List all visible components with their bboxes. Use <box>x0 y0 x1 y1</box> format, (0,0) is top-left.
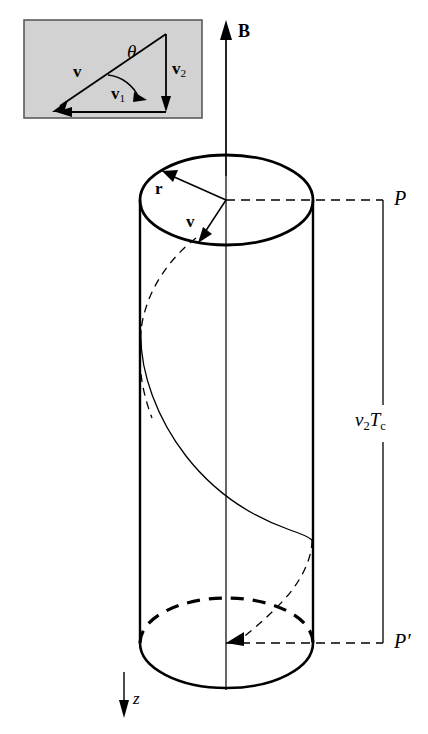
inset-label-v: v <box>73 63 82 80</box>
magnetic-field-axis <box>220 20 232 176</box>
pitch-label-t: T <box>370 409 381 430</box>
pitch-label-t-sub: c <box>380 419 386 433</box>
z-axis <box>119 672 129 718</box>
z-arrowhead <box>119 700 129 718</box>
velocity-vector-v-top <box>198 200 226 243</box>
point-p-prime-label: P′ <box>394 631 411 651</box>
radius-vector-label: r <box>155 180 163 197</box>
inset-label-v1-base: v <box>111 84 120 103</box>
figure-canvas <box>0 0 428 734</box>
helix-hidden-upper <box>140 238 196 418</box>
inset-label-theta: θ <box>127 42 136 61</box>
magnetic-field-label: B <box>238 22 250 40</box>
z-axis-label: z <box>133 690 140 707</box>
b-arrowhead <box>220 20 232 40</box>
point-p-label: P <box>394 188 406 208</box>
figure-root: v v1 v2 θ B r v P P′ v2Tc z <box>0 0 428 734</box>
helix-end-arrowhead <box>226 632 244 646</box>
inset-label-v2: v2 <box>172 60 186 79</box>
r-arrowhead <box>162 170 178 182</box>
pitch-label: v2Tc <box>355 410 386 432</box>
inset-label-v1-sub: 1 <box>120 92 126 104</box>
radius-vector-r <box>162 170 226 200</box>
inset-label-v2-sub: 2 <box>181 67 187 79</box>
velocity-vector-label: v <box>186 213 195 230</box>
v-top-arrowhead <box>198 227 212 243</box>
inset-label-v2-base: v <box>172 59 181 78</box>
inset-label-v1: v1 <box>111 85 125 104</box>
helix-hidden-lower <box>238 540 312 641</box>
